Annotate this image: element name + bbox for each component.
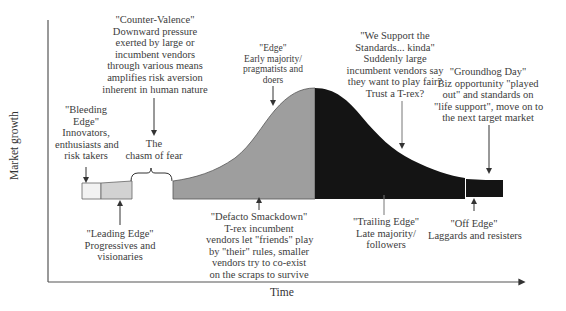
trailing-edge-label: "Trailing Edge" Late majority/ followers: [350, 216, 422, 251]
early-majority-segment: [173, 88, 315, 199]
x-axis-label: Time: [270, 286, 294, 298]
counter-valence-label: "Counter-Valence" Downward pressure exer…: [100, 14, 210, 95]
bleeding-edge-segment: [82, 183, 101, 199]
edge-label: "Edge" Early majority/ pragmatists and d…: [235, 43, 311, 85]
leading-edge-label: "Leading Edge" Progressives and visionar…: [80, 228, 160, 263]
chasm-brace: [131, 168, 172, 181]
defacto-smackdown-label: "Defacto Smackdown" T-rex incumbent vend…: [206, 211, 312, 281]
bleeding-edge-label: "Bleeding Edge" Innovators, enthusiasts …: [55, 104, 117, 162]
laggards-segment: [466, 179, 503, 197]
we-support-standards-label: "We Support the Standards... kinda" Sudd…: [342, 30, 448, 100]
off-edge-label: "Off Edge" Laggards and resisters: [428, 218, 520, 241]
chasm-of-fear-label: The chasm of fear: [122, 138, 186, 161]
leading-edge-segment: [101, 181, 132, 199]
groundhog-day-label: "Groundhog Day" Biz opportunity "played …: [434, 66, 542, 124]
y-axis-label: Market growth: [8, 111, 20, 180]
